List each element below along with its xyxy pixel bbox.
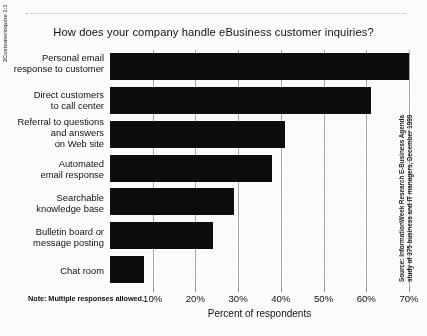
x-axis-title: Percent of respondents [110, 308, 409, 319]
chart-title: How does your company handle eBusiness c… [0, 26, 427, 38]
source-line-2: study of 375 business and IT managers, D… [406, 115, 413, 282]
category-label: Automated email response [0, 159, 104, 181]
top-dotted-rule [26, 13, 406, 15]
x-tick-label: 30% [228, 293, 247, 304]
tickmark-50 [324, 287, 325, 292]
source-attribution: Source: InformationWeek Research E-Busin… [389, 58, 411, 282]
tickmark-20 [195, 287, 196, 292]
gridline-50 [324, 50, 325, 287]
category-axis-labels: Personal email response to customer Dire… [0, 50, 104, 287]
scan-watermark: 2Customerinquire 1:1 [2, 4, 8, 62]
chart-note: Note: Multiple responses allowed. [28, 294, 144, 303]
x-tick-label: 10% [143, 293, 162, 304]
bar-direct-customers [110, 87, 371, 114]
category-label: Searchable knowledge base [0, 193, 104, 215]
tickmark-30 [238, 287, 239, 292]
bar-automated-email [110, 155, 272, 182]
tickmark-10 [153, 287, 154, 292]
bar-bulletin-board [110, 222, 213, 249]
category-label: Referral to questions and answers on Web… [0, 117, 104, 149]
x-tick-label: 20% [186, 293, 205, 304]
x-tick-label: 50% [314, 293, 333, 304]
gridline-40 [281, 50, 282, 287]
chart-figure: How does your company handle eBusiness c… [0, 0, 427, 336]
tickmark-70 [409, 287, 410, 292]
bar-personal-email [110, 53, 409, 80]
category-label: Bulletin board or message posting [0, 227, 104, 249]
plot-area [110, 50, 409, 287]
bar-searchable-knowledge [110, 188, 234, 215]
x-tick-label: 60% [357, 293, 376, 304]
tickmark-60 [366, 287, 367, 292]
x-tick-label: 40% [271, 293, 290, 304]
source-line-1: Source: InformationWeek Research E-Busin… [398, 115, 405, 282]
x-tick-label: 70% [399, 293, 418, 304]
category-label: Chat room [0, 266, 104, 277]
bar-referral [110, 121, 285, 148]
category-label: Personal email response to customer [0, 53, 104, 75]
category-label: Direct customers to call center [0, 90, 104, 112]
gridline-60 [366, 50, 367, 287]
bar-chat-room [110, 256, 144, 283]
tickmark-40 [281, 287, 282, 292]
